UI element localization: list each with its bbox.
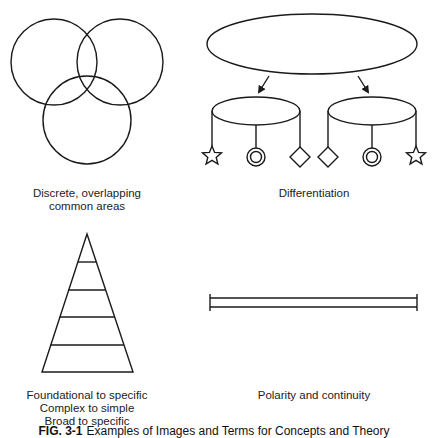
- circle-left: [11, 19, 97, 105]
- figure-caption-text: Examples of Images and Terms for Concept…: [86, 424, 389, 438]
- pyramid-outline: [42, 234, 133, 372]
- polarity-label: Polarity and continuity: [258, 389, 371, 402]
- diamond-icon: [290, 147, 310, 167]
- right-mobile: [318, 97, 426, 167]
- left-child-ellipse: [212, 97, 300, 125]
- arrow-left: [259, 76, 269, 92]
- pyramid-label: Foundational to specific Complex to simp…: [27, 389, 148, 428]
- overlap-label-line-1: Discrete, overlapping: [33, 187, 141, 200]
- differentiation-label: Differentiation: [279, 187, 350, 200]
- differentiation-figure: [203, 14, 426, 167]
- left-mobile: [203, 97, 311, 167]
- differentiation-label-line-1: Differentiation: [279, 187, 350, 200]
- star-icon: [407, 146, 426, 164]
- overlapping-circles-figure: [11, 19, 163, 164]
- diamond-icon: [318, 147, 338, 167]
- overlap-label: Discrete, overlapping common areas: [33, 187, 141, 213]
- star-icon: [203, 146, 222, 164]
- circle-right: [77, 19, 163, 105]
- double-circle-icon: [363, 148, 381, 166]
- pyramid-figure: [42, 234, 133, 372]
- figure-caption: FIG. 3-1Examples of Images and Terms for…: [38, 424, 389, 438]
- parent-ellipse: [207, 14, 417, 74]
- overlap-label-line-2: common areas: [33, 200, 141, 213]
- pyramid-label-line-2: Complex to simple: [27, 402, 148, 415]
- double-circle-icon: [247, 148, 265, 166]
- polarity-label-line-1: Polarity and continuity: [258, 389, 371, 402]
- arrow-right: [358, 76, 368, 92]
- right-child-ellipse: [328, 97, 416, 125]
- figure-number: FIG. 3-1: [38, 424, 82, 438]
- polarity-figure: [210, 294, 417, 311]
- pyramid-label-line-1: Foundational to specific: [27, 389, 148, 402]
